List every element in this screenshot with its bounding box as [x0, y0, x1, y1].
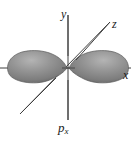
px-orbital-figure: y z x px — [0, 0, 137, 143]
orbital-caption: px — [58, 121, 69, 136]
caption-subscript: x — [65, 126, 69, 136]
negative-x-lobe — [8, 51, 67, 83]
z-axis-label: z — [112, 18, 117, 30]
y-axis-label: y — [61, 8, 66, 20]
z-axis-lower-overlay — [20, 78, 56, 114]
x-axis-label: x — [123, 69, 128, 81]
